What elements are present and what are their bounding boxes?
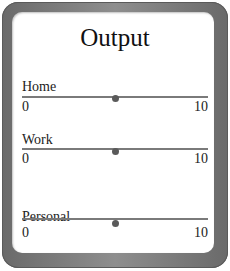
slider-min-home: 0 bbox=[22, 99, 29, 115]
slider-max-work: 10 bbox=[194, 151, 208, 167]
slider-min-work: 0 bbox=[22, 151, 29, 167]
panel-title: Output bbox=[0, 24, 230, 52]
slider-max-personal: 10 bbox=[194, 225, 208, 241]
slider-label-work: Work bbox=[22, 132, 53, 148]
slider-thumb-work[interactable] bbox=[112, 148, 119, 155]
slider-label-home: Home bbox=[22, 79, 56, 95]
slider-thumb-home[interactable] bbox=[112, 95, 119, 102]
slider-max-home: 10 bbox=[194, 99, 208, 115]
slider-thumb-personal[interactable] bbox=[112, 220, 119, 227]
slider-min-personal: 0 bbox=[22, 225, 29, 241]
slider-label-personal: Personal bbox=[22, 209, 70, 225]
